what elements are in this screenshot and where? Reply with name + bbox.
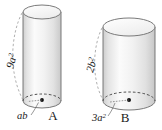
figure-canvas: 9a2 ab A 2b2 (0, 0, 162, 130)
cylinder-a-name-label: A (48, 108, 58, 123)
cylinder-b-height-label: 2b2 (83, 56, 99, 74)
cylinder-a-group: 9a2 ab A (3, 5, 61, 123)
cylinder-a-radius-label: ab (17, 110, 28, 121)
cylinder-a-height-exponent: 2 (7, 52, 16, 58)
cylinder-b-name-label: B (121, 110, 130, 125)
cylinder-a-height-label: 9a2 (3, 52, 19, 70)
cylinder-a-top-cap (23, 5, 61, 19)
svg-text:9a2: 9a2 (3, 52, 19, 70)
svg-text:2b2: 2b2 (83, 56, 99, 74)
cylinder-b-height-exponent: 2 (87, 56, 96, 62)
cylinder-b-radius-label: 3a2 (91, 112, 107, 123)
cylinder-b-radius-exponent: 2 (103, 112, 107, 119)
cylinder-comparison-figure: 9a2 ab A 2b2 (0, 0, 162, 130)
cylinder-a-radius-base: ab (17, 110, 28, 121)
cylinder-b-top-cap (103, 18, 155, 36)
cylinder-b-group: 2b2 3a2 B (83, 18, 155, 125)
cylinder-b-radius-base: 3a (91, 112, 103, 123)
cylinder-b-body (103, 27, 155, 110)
